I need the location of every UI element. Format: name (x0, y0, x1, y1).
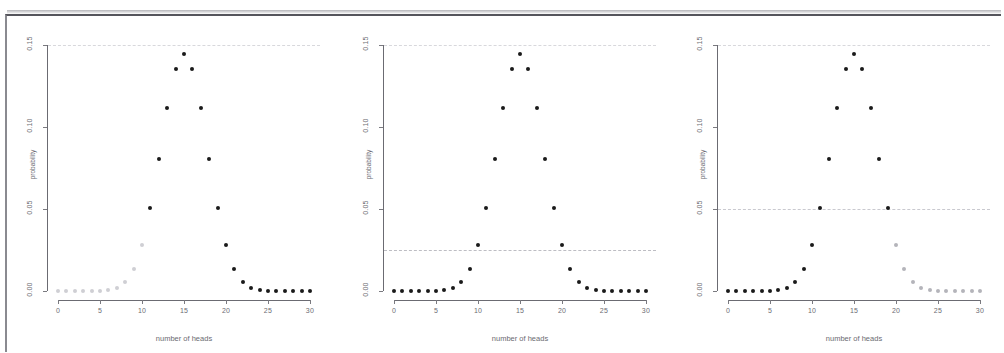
y-tick-label: 0.15 (362, 33, 369, 55)
y-tick-label: 0.05 (362, 197, 369, 219)
x-tick-label: 20 (558, 307, 566, 314)
data-point (594, 288, 598, 292)
data-point (970, 289, 974, 293)
y-axis-line-2 (383, 45, 384, 291)
y-axis-title: probability (699, 134, 706, 194)
x-tick (938, 300, 939, 304)
data-point (760, 289, 764, 293)
y-axis-line-3 (717, 45, 718, 291)
data-point (793, 280, 797, 284)
data-point (902, 267, 906, 271)
data-point (776, 288, 780, 292)
x-tick-label: 15 (516, 307, 524, 314)
plot-area-2: 0.000.050.100.15051015202530 (384, 42, 656, 291)
data-point (535, 106, 539, 110)
data-point (283, 289, 287, 293)
y-tick (379, 291, 383, 292)
data-point (182, 52, 186, 56)
x-tick (812, 300, 813, 304)
x-tick-label: 25 (264, 307, 272, 314)
data-point (627, 289, 631, 293)
data-point (484, 206, 488, 210)
y-tick-label: 0.10 (26, 115, 33, 137)
y-tick-label: 0.00 (26, 279, 33, 301)
data-point (476, 243, 480, 247)
data-point (106, 288, 110, 292)
data-point (274, 289, 278, 293)
data-point (751, 289, 755, 293)
data-point (953, 289, 957, 293)
reference-line-0.15 (718, 45, 990, 46)
x-tick (58, 300, 59, 304)
y-tick (379, 127, 383, 128)
data-point (734, 289, 738, 293)
x-tick (142, 300, 143, 304)
data-point (552, 206, 556, 210)
data-point (417, 289, 421, 293)
data-point (98, 289, 102, 293)
y-tick (713, 127, 717, 128)
data-point (81, 289, 85, 293)
data-point (249, 286, 253, 290)
data-point (844, 67, 848, 71)
y-tick (713, 209, 717, 210)
plot-area-3: 0.000.050.100.15051015202530 (718, 42, 990, 291)
data-point (894, 243, 898, 247)
data-point (165, 106, 169, 110)
data-point (785, 286, 789, 290)
x-axis-title: number of heads (156, 334, 212, 343)
y-axis-title: probability (29, 134, 36, 194)
chart-panel-3: 0.000.050.100.15051015202530number of he… (670, 0, 1004, 353)
data-point (216, 206, 220, 210)
data-point (768, 289, 772, 293)
data-point (392, 289, 396, 293)
data-point (526, 67, 530, 71)
x-tick (896, 300, 897, 304)
data-point (442, 288, 446, 292)
x-tick-label: 10 (808, 307, 816, 314)
data-point (468, 267, 472, 271)
data-point (944, 289, 948, 293)
data-point (602, 289, 606, 293)
y-tick-label: 0.10 (362, 115, 369, 137)
data-point (459, 280, 463, 284)
data-point (802, 267, 806, 271)
data-point (644, 289, 648, 293)
y-tick (713, 45, 717, 46)
y-tick (379, 45, 383, 46)
data-point (835, 106, 839, 110)
data-point (911, 280, 915, 284)
y-tick-label: 0.00 (362, 279, 369, 301)
x-tick-label: 5 (434, 307, 438, 314)
data-point (961, 289, 965, 293)
data-point (451, 286, 455, 290)
data-point (56, 289, 60, 293)
data-point (199, 106, 203, 110)
data-point (140, 243, 144, 247)
reference-line-0.025 (384, 250, 656, 251)
y-tick (713, 291, 717, 292)
data-point (827, 157, 831, 161)
reference-line-0.15 (48, 45, 320, 46)
y-axis-line-1 (47, 45, 48, 291)
data-point (636, 289, 640, 293)
x-tick (394, 300, 395, 304)
x-tick (436, 300, 437, 304)
x-tick (646, 300, 647, 304)
y-tick-label: 0.05 (26, 197, 33, 219)
data-point (869, 106, 873, 110)
data-point (258, 288, 262, 292)
data-point (207, 157, 211, 161)
x-tick (728, 300, 729, 304)
data-point (409, 289, 413, 293)
data-point (936, 289, 940, 293)
data-point (148, 206, 152, 210)
data-point (919, 286, 923, 290)
plot-area-1: 0.000.050.100.15051015202530 (48, 42, 320, 291)
x-tick-label: 30 (976, 307, 984, 314)
data-point (434, 289, 438, 293)
data-point (291, 289, 295, 293)
data-point (90, 289, 94, 293)
data-point (978, 289, 982, 293)
data-point (132, 267, 136, 271)
